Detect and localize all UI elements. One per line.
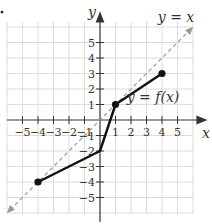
y-tick-label: 3 xyxy=(88,68,95,81)
corner-dot xyxy=(1,11,4,14)
y-tick-label: −3 xyxy=(79,161,95,174)
endpoint-marker xyxy=(112,101,119,108)
x-tick-label: 2 xyxy=(128,126,135,139)
x-tick-label: 3 xyxy=(143,126,150,139)
x-tick-labels: −5 −4 −3 −2 −1 1 2 3 4 5 xyxy=(14,126,181,139)
y-tick-label: 5 xyxy=(88,37,95,50)
x-tick-label: 5 xyxy=(174,126,181,139)
function-label: y = f(x) xyxy=(126,89,180,105)
x-tick-label: −3 xyxy=(45,126,61,139)
y-axis-arrow-icon xyxy=(97,13,104,22)
y-tick-label: −5 xyxy=(79,192,95,205)
chart: −5 −4 −3 −2 −1 1 2 3 4 5 5 4 3 2 1 −1 −2… xyxy=(0,0,212,224)
x-tick-label: −4 xyxy=(30,126,46,139)
y-tick-label: 1 xyxy=(88,99,95,112)
x-tick-label: 4 xyxy=(159,126,166,139)
x-tick-label: 1 xyxy=(112,126,119,139)
y-tick-label: 4 xyxy=(88,52,95,65)
endpoint-marker xyxy=(34,178,41,185)
y-tick-label: 2 xyxy=(88,83,95,96)
x-tick-label: −2 xyxy=(61,126,77,139)
identity-line-label: y = x xyxy=(157,9,195,25)
endpoint-marker xyxy=(158,70,165,77)
y-tick-label: −4 xyxy=(79,176,95,189)
x-tick-label: −5 xyxy=(14,126,30,139)
x-axis-arrow-icon xyxy=(197,117,206,124)
y-tick-label: −1 xyxy=(79,130,95,143)
x-axis-label: x xyxy=(202,125,210,141)
y-axis-label: y xyxy=(87,4,97,20)
